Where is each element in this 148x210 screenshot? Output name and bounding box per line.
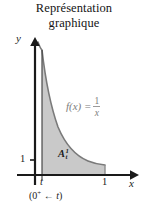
x-tick-label-one: 1 [102,177,107,188]
limit-close-paren: ) [59,190,62,201]
fraction-numerator: 1 [93,96,100,106]
fraction-denominator: x [93,108,100,118]
x-tick-label-t: t [40,177,43,188]
x-axis-label: x [129,178,134,189]
function-fraction: 1x [93,96,100,118]
area-label: A1t [58,148,69,160]
area-label-subscript: t [66,154,69,160]
area-label-indices: 1t [66,148,69,160]
figure-container: Représentation graphique y x 1 t 1 (0+ ←… [0,0,148,210]
function-label-name: f(x) = [66,100,91,112]
y-axis-label: y [16,33,21,44]
y-tick-label-one: 1 [20,154,25,165]
limit-arrow: ← [41,190,56,201]
function-label: f(x) =1x [66,96,100,118]
limit-annotation: (0+ ← t) [29,190,62,201]
area-label-letter: A [58,148,65,159]
